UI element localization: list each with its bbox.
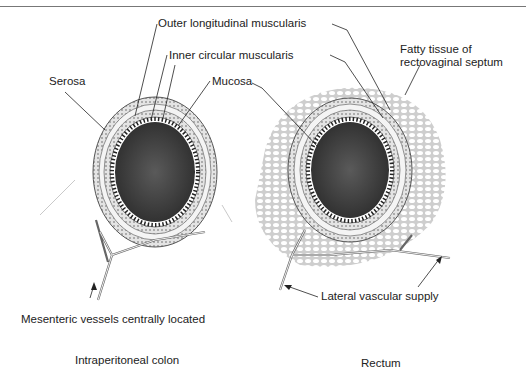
rectum-cross-section [255, 88, 450, 290]
label-fatty-tissue-line1: Fatty tissue of [400, 43, 503, 56]
label-fatty-tissue: Fatty tissue of rectovaginal septum [400, 43, 503, 69]
label-mucosa: Mucosa [212, 75, 252, 88]
label-serosa: Serosa [49, 75, 85, 88]
label-lateral-vascular-supply: Lateral vascular supply [321, 290, 439, 303]
caption-rectum: Rectum [361, 357, 401, 369]
label-fatty-tissue-line2: rectovaginal septum [400, 56, 503, 69]
arrowheads [91, 256, 442, 290]
colon-cross-section [40, 97, 232, 300]
label-outer-longitudinal-muscularis: Outer longitudinal muscularis [158, 17, 306, 30]
label-inner-circular-muscularis: Inner circular muscularis [169, 49, 294, 62]
caption-intraperitoneal-colon: Intraperitoneal colon [75, 354, 179, 366]
label-mesenteric-vessels: Mesenteric vessels centrally located [21, 313, 205, 326]
